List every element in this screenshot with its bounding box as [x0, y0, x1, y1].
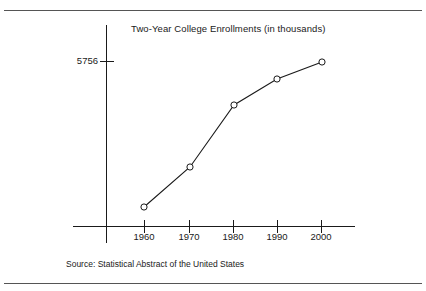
y-axis-tick-label-5756: 5756	[62, 55, 98, 66]
data-line-enrollments	[144, 62, 322, 207]
x-axis-tick-label-2000: 2000	[310, 231, 331, 242]
x-axis-tick-label-1980: 1980	[222, 231, 243, 242]
chart-title: Two-Year College Enrollments (in thousan…	[131, 23, 326, 34]
x-axis-tick-label-1990: 1990	[266, 231, 287, 242]
data-point-2000[interactable]	[319, 59, 325, 65]
figure-container: Two-Year College Enrollments (in thousan…	[0, 0, 426, 291]
x-axis-tick-label-1960: 1960	[133, 231, 154, 242]
data-point-1990[interactable]	[274, 76, 280, 82]
data-point-1970[interactable]	[187, 164, 193, 170]
source-note: Source: Statistical Abstract of the Unit…	[66, 259, 244, 269]
data-point-1980[interactable]	[231, 102, 237, 108]
x-axis-tick-label-1970: 1970	[178, 231, 199, 242]
chart-svg	[0, 0, 426, 291]
data-point-1960[interactable]	[141, 204, 147, 210]
line-chart-plot	[0, 0, 426, 291]
